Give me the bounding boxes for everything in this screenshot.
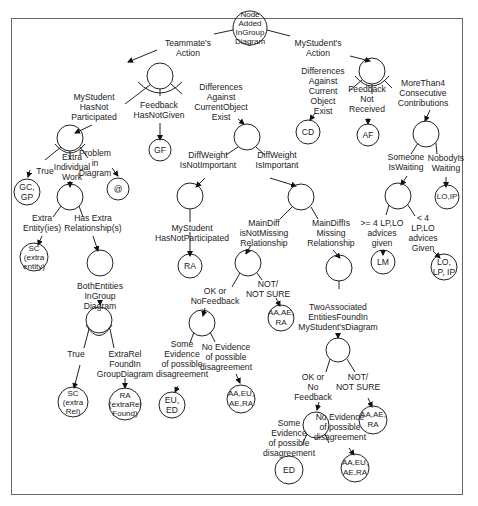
label-mystudent-hasnot-participated: MyStudent HasNot Participated [71, 92, 116, 122]
leaf-ed-label: ED [283, 465, 295, 475]
decision-tree-graph [0, 0, 478, 506]
label-extra-entities: Extra Entity(ies) [23, 213, 61, 233]
label-both-entities: BothEntities InGroup Diagram [77, 281, 123, 311]
label-maindiff-missing: MainDiffIs Missing Relationship [307, 218, 354, 248]
two-associated-node [326, 338, 350, 362]
leaf-sc-extra-rel-label: SC (extra Rel) [63, 389, 83, 416]
label-extrarel-found: ExtraRel FoundIn GroupDiagram [97, 349, 153, 379]
label-mystudent-action: MyStudent's Action [294, 38, 341, 58]
maindiff-missing-node [326, 255, 352, 281]
maindiff-notmissing-node [235, 250, 261, 276]
leaf-aa-ae-ra-2-label: AA,AE, RA [360, 410, 386, 430]
label-lt4-advices: < 4 LP,LO advices Given [408, 213, 437, 253]
leaf-cd-label: CD [302, 127, 314, 137]
label-diffweight-important: DiffWeight IsImportant [256, 150, 299, 170]
label-not-notsure-2: NOT/ NOT SURE [336, 372, 380, 392]
diffweight-notimportant-node [177, 183, 203, 209]
leaf-ra-label: RA [184, 261, 196, 271]
label-someone-waiting: Someone IsWaiting [388, 152, 425, 172]
leaf-ra-extrarel-found-label: RA (extraRel Found) [109, 391, 141, 418]
leaf-lo-ip-label: LO,IP [437, 192, 457, 202]
differences-node [234, 124, 260, 150]
label-feedback-not-received: Feedback Not Received [348, 84, 386, 114]
label-problem-in-diagram: Problem in Diagram [79, 148, 111, 178]
diffweight-important-node [288, 184, 314, 210]
label-has-extra-relationships: Has Extra Relationship(s) [64, 213, 121, 233]
label-no-evidence-1: No Evidence of possible disagreement [200, 342, 252, 372]
leaf-gf-label: GF [154, 145, 166, 155]
label-some-evidence-2: Some Evidence of possible disagreement [263, 418, 315, 458]
label-ok-or-nofeedback: OK or NoFeedback [191, 286, 240, 306]
leaf-aa-ae-ra-1-label: AA,AE, RA [268, 308, 294, 328]
label-not-notsure-1: NOT/ NOT SURE [246, 279, 290, 299]
label-true-1: True [36, 166, 53, 176]
teammate-node [147, 63, 173, 89]
leaf-gc-gp-label: GC, GP [19, 182, 34, 202]
label-more-than4: MoreThan4 Consecutive Contributions [398, 78, 449, 108]
label-mystudent-hasnot-participated-2: MyStudent HasNotParticipated [155, 223, 229, 243]
label-ge4-advices: >= 4 LP,LO advices given [361, 218, 404, 248]
mystudent-node [359, 58, 385, 84]
label-no-evidence-2: No Evidence of possible disagreement [314, 412, 366, 442]
ok-nofeedback-node [189, 310, 215, 336]
label-nobody-waiting: NobodyIs Waiting [428, 153, 464, 173]
leaf-af-label: AF [363, 130, 374, 140]
root-node-label: Node Added InGroup Diagram [235, 10, 265, 46]
both-entities-node [87, 250, 113, 276]
label-differences-left: Differences Against CurrentObject Exist [194, 82, 248, 122]
label-differences-right: Differences Against Current Object Exist [301, 66, 344, 116]
label-ok-or-no-feedback-2: OK or No Feedback [294, 372, 332, 402]
label-two-associated: TwoAssociated EntitiesFoundIn MyStudent'… [298, 302, 378, 332]
label-teammate-action: Teammate's Action [165, 38, 211, 58]
leaf-aa-eu-ae-ra-1-label: AA,EU, AE,RA [228, 389, 254, 409]
leaf-at-label: @ [114, 184, 123, 194]
leaf-sc-extra-entity-label: SC (extra entity) [23, 244, 45, 271]
leaf-aa-eu-ae-ra-2-label: AA,EU, AE,RA [342, 458, 368, 478]
leaf-eu-ed-label: EU, ED [165, 395, 179, 415]
leaf-lm-label: LM [377, 257, 389, 267]
morethan4-node [413, 121, 439, 147]
label-true-2: True [67, 349, 84, 359]
label-feedback-hasnotgiven: Feedback HasNotGiven [133, 100, 184, 120]
label-diffweight-not-important: DiffWeight IsNotImportant [180, 150, 236, 170]
leaf-lo-lp-ip-label: LO, LP, IP [433, 257, 455, 277]
label-maindiff-not-missing: MainDiff isNotMissing Relationship [240, 218, 289, 248]
